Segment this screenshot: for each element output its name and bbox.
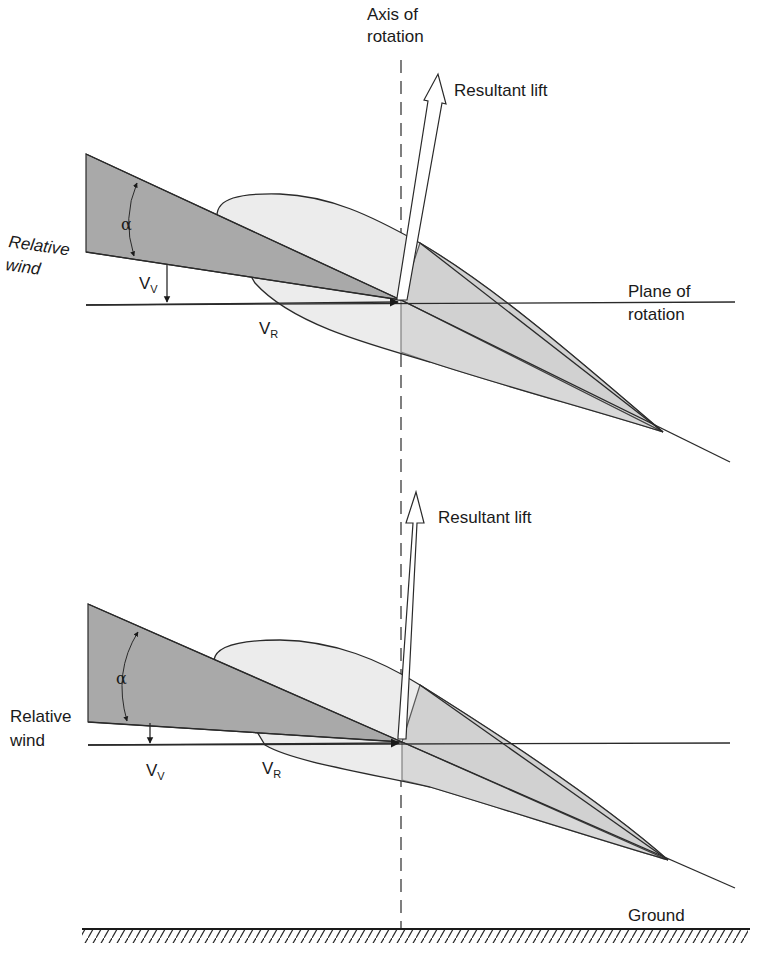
- ground: Ground: [82, 906, 750, 943]
- top-alpha-symbol: α: [121, 215, 132, 234]
- bottom-relative-wind-line1: Relative: [10, 707, 71, 726]
- axis-label-line2: rotation: [367, 27, 424, 46]
- axis-of-rotation: Axis of rotation: [367, 5, 424, 930]
- top-diagram: α Resultant lift Relative wind VV VR Pla…: [4, 74, 735, 462]
- ground-label: Ground: [628, 906, 685, 925]
- bottom-resultant-lift-label: Resultant lift: [438, 508, 532, 527]
- top-resultant-lift-label: Resultant lift: [454, 81, 548, 100]
- bottom-alpha-symbol: α: [116, 669, 127, 688]
- top-relative-wind-line1: Relative: [7, 232, 70, 259]
- bottom-vv-label: VV: [146, 761, 165, 782]
- bottom-vr-label: VR: [262, 759, 281, 780]
- top-relative-wind-line2: wind: [4, 255, 42, 279]
- top-vr-label: VR: [259, 319, 278, 340]
- bottom-chord-line: [402, 742, 735, 888]
- top-vv-label: VV: [139, 274, 158, 295]
- bottom-relative-wind-line2: wind: [9, 731, 45, 750]
- axis-label-line1: Axis of: [367, 5, 418, 24]
- plane-of-rotation-label-line1: Plane of: [628, 282, 691, 301]
- plane-of-rotation-label-line2: rotation: [628, 305, 685, 324]
- autorotation-diagram: Axis of rotation α Resultant lift Relati…: [0, 0, 763, 959]
- ground-hatching: [82, 929, 748, 943]
- top-chord-line: [401, 300, 730, 462]
- bottom-diagram: α Resultant lift Relative wind VV VR: [9, 492, 735, 888]
